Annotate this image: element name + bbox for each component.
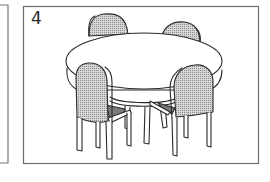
- picture-card-scene: 4: [0, 0, 270, 182]
- partial-panel-frame-left: [0, 5, 8, 163]
- panel-number-label: 4: [31, 8, 42, 28]
